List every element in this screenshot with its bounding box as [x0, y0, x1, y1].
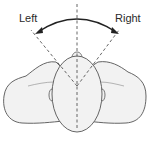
- label-right: Right: [115, 13, 141, 24]
- label-left: Left: [19, 13, 37, 24]
- arrowhead-right-icon: [111, 27, 119, 34]
- arrowhead-left-icon: [35, 27, 43, 34]
- head-rotation-diagram: Left Right: [0, 0, 148, 145]
